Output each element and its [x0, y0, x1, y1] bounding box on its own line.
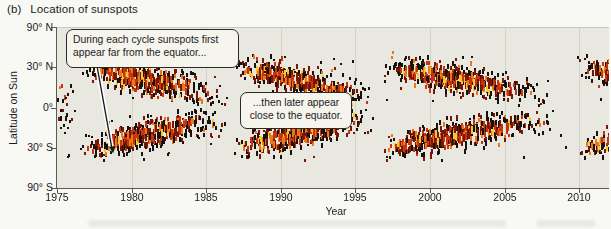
x-tick-label-1985: 1985 — [187, 191, 225, 203]
annotation-later-equator: ...then later appear close to the equato… — [240, 92, 352, 129]
figure-title-text: Location of sunspots — [30, 3, 138, 15]
x-tick-label-1975: 1975 — [38, 191, 76, 203]
y-tick-30s — [51, 148, 56, 149]
y-tick-label-90n: 90° N — [0, 21, 53, 34]
y-tick-90n — [51, 27, 56, 28]
x-axis-title: Year — [317, 205, 355, 217]
x-tick-label-2000: 2000 — [411, 191, 449, 203]
figure-title: (b)Location of sunspots — [7, 3, 138, 15]
y-tick-label-0: 0° — [0, 101, 53, 114]
y-tick-label-30n: 30° N — [0, 60, 53, 73]
y-axis-line — [56, 27, 57, 189]
x-tick-label-2005: 2005 — [486, 191, 524, 203]
cropped-caption-remnant — [88, 220, 506, 227]
x-tick-label-1980: 1980 — [113, 191, 151, 203]
x-tick-label-2010: 2010 — [560, 191, 598, 203]
y-tick-30n — [51, 67, 56, 68]
annotation-first-appear: During each cycle sunspots first appear … — [66, 29, 239, 68]
y-tick-0 — [51, 108, 56, 109]
x-tick-label-1990: 1990 — [262, 191, 300, 203]
butterfly-diagram-figure: (b)Location of sunspots Latitude on Sun … — [0, 0, 611, 229]
cropped-caption-remnant — [537, 220, 595, 227]
figure-index: (b) — [7, 3, 21, 15]
y-tick-90s — [51, 188, 56, 189]
x-axis-line — [56, 188, 609, 189]
x-tick-label-1995: 1995 — [336, 191, 374, 203]
y-tick-label-30s: 30° S — [0, 141, 53, 154]
